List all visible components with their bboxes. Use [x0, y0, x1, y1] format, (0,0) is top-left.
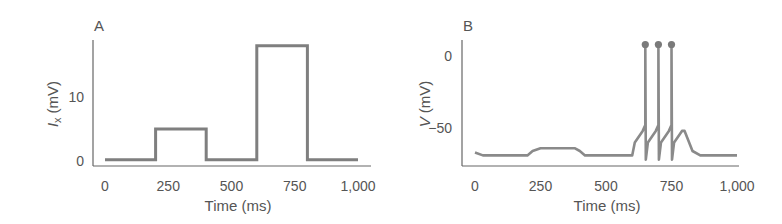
x-tick-label: 250: [529, 178, 553, 194]
x-tick-label: 1,000: [340, 178, 375, 194]
panel-b-spike-markers: [642, 41, 675, 48]
svg-text:V(mV): V(mV): [416, 81, 433, 128]
panel-a-y-axis-label: Ix(mV): [44, 81, 63, 127]
svg-text:Ix(mV): Ix(mV): [44, 81, 63, 127]
y-tick-label: 10: [68, 89, 84, 105]
x-tick-label: 750: [283, 178, 307, 194]
panel-a-x-axis-label: Time (ms): [205, 197, 272, 214]
x-tick-label: 500: [220, 178, 244, 194]
panel-b-x-axis-label: Time (ms): [574, 197, 641, 214]
panel-b: B 0−50 02505007501,000 Time (ms) V(mV): [416, 17, 755, 214]
panel-b-y-axis-label: V(mV): [416, 81, 433, 128]
panel-a-y-tick-labels: 010: [68, 89, 84, 169]
panel-a: A 010 02505007501,000 Time (ms) Ix(mV): [44, 17, 376, 214]
x-tick-label: 250: [157, 178, 181, 194]
panel-b-voltage-trace: [475, 45, 737, 160]
panel-a-letter: A: [94, 17, 104, 34]
panel-a-x-tick-labels: 02505007501,000: [101, 178, 376, 194]
x-tick-label: 0: [101, 178, 109, 194]
x-tick-label: 0: [471, 178, 479, 194]
panel-a-current-trace: [105, 46, 358, 160]
panel-b-letter: B: [463, 17, 473, 34]
spike-marker-dot: [642, 41, 649, 48]
x-tick-label: 750: [660, 178, 684, 194]
y-tick-label: 0: [76, 153, 84, 169]
panel-b-x-tick-labels: 02505007501,000: [471, 178, 755, 194]
x-tick-label: 1,000: [719, 178, 754, 194]
spike-marker-dot: [668, 41, 675, 48]
spike-marker-dot: [655, 41, 662, 48]
y-tick-label: 0: [444, 48, 452, 64]
figure: A 010 02505007501,000 Time (ms) Ix(mV) B…: [0, 0, 782, 224]
x-tick-label: 500: [594, 178, 618, 194]
